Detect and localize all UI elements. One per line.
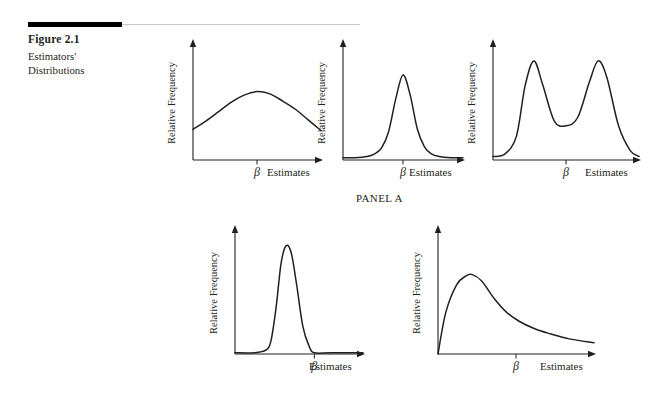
beta-label: β bbox=[562, 165, 569, 179]
figure-number: Figure 2.1 bbox=[28, 33, 80, 45]
y-axis-arrow-icon bbox=[232, 225, 238, 233]
distribution-curve bbox=[235, 245, 363, 353]
y-axis-label: Relative Frequency bbox=[466, 61, 477, 144]
chart-bimodal: βEstimatesRelative Frequency bbox=[463, 36, 641, 194]
figure-rule-thick bbox=[28, 22, 122, 27]
beta-label: β bbox=[253, 165, 260, 179]
y-axis-arrow-icon bbox=[340, 39, 346, 47]
x-axis-arrow-icon bbox=[588, 351, 596, 357]
chart-right-skewed: βEstimatesRelative Frequency bbox=[408, 222, 596, 388]
y-axis-arrow-icon bbox=[490, 39, 496, 47]
distribution-curve bbox=[193, 92, 321, 131]
x-axis-label: Estimates bbox=[540, 360, 583, 372]
x-axis-arrow-icon bbox=[357, 351, 365, 357]
figure-rule bbox=[28, 22, 360, 28]
y-axis-arrow-icon bbox=[190, 39, 196, 47]
chart-unbiased-low-variance: βEstimatesRelative Frequency bbox=[313, 36, 465, 194]
panel-a-label: PANEL A bbox=[356, 192, 403, 204]
x-axis-label: Estimates bbox=[309, 360, 352, 372]
beta-label: β bbox=[512, 359, 519, 373]
distribution-curve bbox=[438, 274, 594, 354]
distribution-curve bbox=[493, 61, 639, 157]
x-axis-arrow-icon bbox=[633, 157, 641, 163]
y-axis-label: Relative Frequency bbox=[166, 61, 177, 144]
x-axis-label: Estimates bbox=[409, 166, 452, 178]
distribution-curve bbox=[343, 75, 463, 158]
x-axis-label: Estimates bbox=[585, 166, 628, 178]
y-axis-label: Relative Frequency bbox=[411, 251, 422, 334]
beta-label: β bbox=[399, 165, 406, 179]
y-axis-label: Relative Frequency bbox=[316, 61, 327, 144]
y-axis-arrow-icon bbox=[435, 225, 441, 233]
chart-unbiased-high-variance: βEstimatesRelative Frequency bbox=[163, 36, 323, 194]
figure-caption: Estimators' Distributions bbox=[28, 50, 132, 77]
figure-rule-thin bbox=[122, 24, 360, 25]
x-axis-label: Estimates bbox=[267, 166, 310, 178]
chart-biased-low-variance: βEstimatesRelative Frequency bbox=[205, 222, 365, 388]
y-axis-label: Relative Frequency bbox=[208, 251, 219, 334]
